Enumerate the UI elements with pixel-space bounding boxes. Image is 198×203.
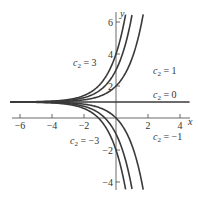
solution-curves <box>10 14 189 189</box>
x-tick-label: 2 <box>146 120 151 131</box>
x-tick-label: −6 <box>15 120 26 131</box>
x-tick-label: −4 <box>47 120 58 131</box>
y-tick-label: 4 <box>108 49 113 60</box>
curve-label: c2 = −1 <box>153 131 182 144</box>
curve-label: c2 = 0 <box>153 89 177 102</box>
x-tick-label: −2 <box>79 120 90 131</box>
y-tick-label: 6 <box>108 17 113 28</box>
x-axis-label: x <box>187 116 193 127</box>
y-tick-label: −4 <box>102 177 113 188</box>
curve-label: c2 = 3 <box>73 57 97 70</box>
x-tick-label: 4 <box>178 120 183 131</box>
chart: −6−4−224−4−2246xy c2 = 3c2 = 1c2 = 0c2 =… <box>0 0 198 203</box>
y-tick-label: −2 <box>102 145 113 156</box>
y-axis-label: y <box>119 8 125 19</box>
curve-label: c2 = −3 <box>70 135 99 148</box>
curve-label: c2 = 1 <box>153 65 177 78</box>
